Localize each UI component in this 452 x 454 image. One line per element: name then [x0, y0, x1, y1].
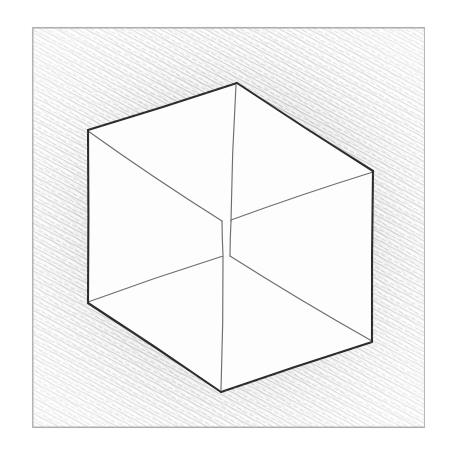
- sketch-canvas: [0, 0, 452, 454]
- grain-overlay: [32, 27, 425, 428]
- artboard: [0, 0, 452, 454]
- paper-grain-layer: [0, 0, 452, 454]
